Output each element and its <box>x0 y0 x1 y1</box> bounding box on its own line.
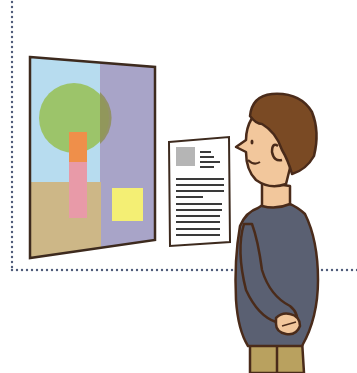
painting <box>30 57 156 262</box>
gallery-scene: Man in a dark jacket viewing a framed ab… <box>0 0 357 373</box>
placard <box>169 137 230 246</box>
person <box>236 94 319 373</box>
